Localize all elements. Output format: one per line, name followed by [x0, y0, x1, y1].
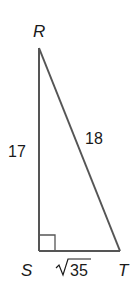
right-angle-marker [39, 235, 55, 251]
triangle-diagram: R S T 17 18 35 [0, 0, 138, 306]
vertex-label-t: T [118, 261, 130, 280]
side-label-rs: 17 [8, 143, 26, 160]
vertex-label-r: R [33, 22, 45, 41]
side-label-rt: 18 [85, 130, 103, 147]
vertex-label-s: S [21, 261, 33, 280]
side-rt [39, 48, 120, 251]
side-label-st: 35 [70, 262, 88, 279]
